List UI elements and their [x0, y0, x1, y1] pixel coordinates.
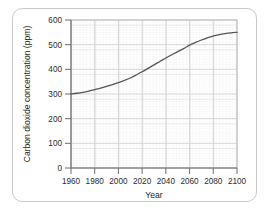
x-tick-label-2020: 2020: [133, 177, 152, 186]
y-tick-label-500: 500: [48, 41, 62, 50]
y-tick-label-100: 100: [48, 139, 62, 148]
y-tick-label-200: 200: [48, 115, 62, 124]
x-tick-label-2100: 2100: [228, 177, 247, 186]
x-tick-label-1980: 1980: [86, 177, 105, 186]
x-axis-title: Year: [145, 190, 163, 200]
y-axis-ticks: [65, 20, 71, 168]
y-tick-label-600: 600: [48, 16, 62, 25]
y-tick-label-0: 0: [57, 164, 62, 173]
co2-concentration-line-chart: 600 500 400 300 200 100 0 1960 1980 2000…: [0, 0, 277, 214]
x-tick-label-1960: 1960: [62, 177, 81, 186]
plot-area: [71, 20, 237, 168]
x-tick-label-2000: 2000: [109, 177, 128, 186]
x-tick-label-2040: 2040: [157, 177, 176, 186]
x-tick-label-2080: 2080: [204, 177, 223, 186]
y-axis-title: Carbon dioxide concentration (ppm): [22, 26, 32, 163]
x-axis-tick-labels: 1960 1980 2000 2020 2040 2060 2080 2100: [62, 177, 247, 186]
figure-root: 600 500 400 300 200 100 0 1960 1980 2000…: [0, 0, 277, 214]
y-tick-label-300: 300: [48, 90, 62, 99]
y-tick-label-400: 400: [48, 65, 62, 74]
x-tick-label-2060: 2060: [180, 177, 199, 186]
y-axis-tick-labels: 600 500 400 300 200 100 0: [48, 16, 62, 173]
x-axis-ticks: [71, 168, 237, 174]
